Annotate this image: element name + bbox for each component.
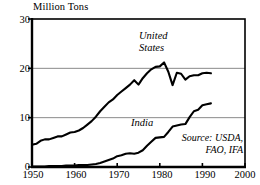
series-label-united-states: United States bbox=[139, 30, 168, 54]
source-note-line1: Source: USDA, bbox=[182, 132, 243, 143]
series-label-india: India bbox=[131, 117, 153, 129]
plot-area bbox=[0, 0, 260, 185]
source-note-line2: FAO, IFA bbox=[206, 144, 243, 155]
series-label-united-states-line2: States bbox=[139, 42, 164, 53]
source-note: Source: USDA, FAO, IFA bbox=[159, 132, 243, 156]
chart-container: Million Tons 30 20 10 0 1950 1960 1970 1… bbox=[0, 0, 260, 185]
series-label-united-states-line1: United bbox=[139, 30, 168, 41]
